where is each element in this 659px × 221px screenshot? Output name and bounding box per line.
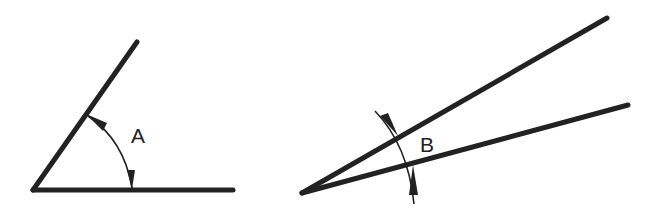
angle-b-upper-ray [302, 18, 607, 193]
angle-b-label: B [420, 133, 434, 156]
angle-a-dimension-arc [88, 116, 132, 188]
angle-b-arrowhead-upper-icon [380, 113, 398, 136]
angle-a: A [33, 42, 233, 190]
angle-b: B [302, 18, 628, 204]
angle-b-dimension-arc [375, 111, 414, 204]
angle-a-label: A [131, 124, 145, 147]
angle-a-arrowhead-upper-icon [86, 114, 107, 131]
angle-a-upper-ray [33, 42, 137, 190]
angle-b-lower-ray [302, 105, 628, 193]
angle-diagram: A B [0, 0, 659, 221]
